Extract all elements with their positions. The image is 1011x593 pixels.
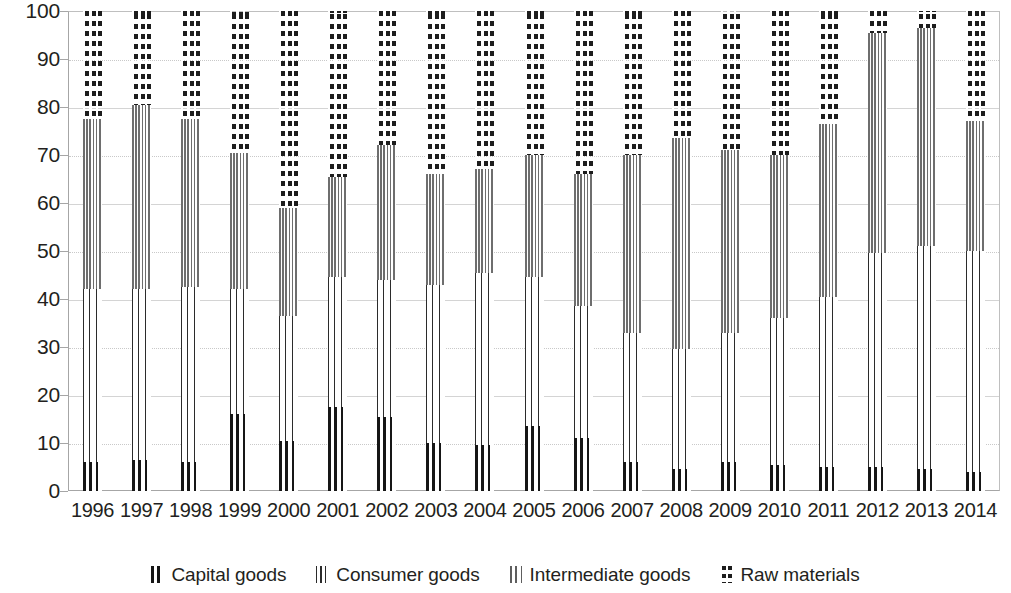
- bar-segment-intermediate[interactable]: [83, 119, 102, 289]
- bar-segment-raw[interactable]: [917, 11, 936, 28]
- bar-segment-intermediate[interactable]: [279, 208, 298, 316]
- bar-segment-consumer[interactable]: [230, 289, 249, 414]
- bar-group[interactable]: [917, 11, 936, 491]
- bar-segment-consumer[interactable]: [623, 333, 642, 463]
- bar-segment-intermediate[interactable]: [525, 155, 544, 277]
- bar-segment-raw[interactable]: [181, 11, 200, 119]
- bar-group[interactable]: [426, 11, 445, 491]
- bar-segment-consumer[interactable]: [181, 287, 200, 462]
- bar-segment-capital[interactable]: [819, 467, 838, 491]
- bar-segment-intermediate[interactable]: [230, 153, 249, 290]
- bar-segment-capital[interactable]: [623, 462, 642, 491]
- bar-segment-raw[interactable]: [966, 11, 985, 121]
- bar-group[interactable]: [525, 11, 544, 491]
- bar-segment-consumer[interactable]: [672, 349, 691, 469]
- bar-segment-intermediate[interactable]: [721, 150, 740, 332]
- bar-segment-raw[interactable]: [377, 11, 396, 145]
- bar-group[interactable]: [672, 11, 691, 491]
- bar-segment-capital[interactable]: [770, 465, 789, 491]
- bar-segment-capital[interactable]: [917, 469, 936, 491]
- bar-segment-intermediate[interactable]: [181, 119, 200, 287]
- bar-segment-consumer[interactable]: [426, 285, 445, 443]
- bar-segment-capital[interactable]: [181, 462, 200, 491]
- bar-segment-intermediate[interactable]: [475, 169, 494, 272]
- bar-segment-intermediate[interactable]: [966, 121, 985, 251]
- bar-segment-capital[interactable]: [475, 445, 494, 491]
- bar-segment-capital[interactable]: [525, 426, 544, 491]
- bar-segment-intermediate[interactable]: [868, 33, 887, 254]
- bar-segment-intermediate[interactable]: [672, 138, 691, 349]
- bar-segment-capital[interactable]: [868, 467, 887, 491]
- legend-item[interactable]: Raw materials: [720, 565, 859, 584]
- bar-segment-intermediate[interactable]: [623, 155, 642, 333]
- bar-segment-raw[interactable]: [328, 11, 347, 177]
- bar-segment-raw[interactable]: [83, 11, 102, 119]
- bar-segment-capital[interactable]: [83, 462, 102, 491]
- bar-segment-capital[interactable]: [574, 438, 593, 491]
- bar-segment-consumer[interactable]: [525, 277, 544, 426]
- bar-segment-consumer[interactable]: [917, 246, 936, 469]
- bar-group[interactable]: [966, 11, 985, 491]
- bar-segment-raw[interactable]: [279, 11, 298, 208]
- x-axis-tick-label: 2006: [559, 498, 608, 522]
- bar-segment-consumer[interactable]: [279, 316, 298, 441]
- bar-group[interactable]: [132, 11, 151, 491]
- bar-segment-capital[interactable]: [672, 469, 691, 491]
- bar-segment-raw[interactable]: [475, 11, 494, 169]
- bar-segment-capital[interactable]: [377, 417, 396, 491]
- bar-group[interactable]: [819, 11, 838, 491]
- bar-segment-consumer[interactable]: [868, 253, 887, 467]
- bar-segment-raw[interactable]: [819, 11, 838, 124]
- bar-segment-capital[interactable]: [132, 460, 151, 491]
- bar-group[interactable]: [181, 11, 200, 491]
- legend-item[interactable]: Consumer goods: [316, 565, 479, 584]
- bar-group[interactable]: [377, 11, 396, 491]
- bar-segment-intermediate[interactable]: [819, 124, 838, 297]
- bar-group[interactable]: [279, 11, 298, 491]
- bar-group[interactable]: [623, 11, 642, 491]
- bar-segment-consumer[interactable]: [377, 280, 396, 417]
- bar-segment-raw[interactable]: [230, 11, 249, 153]
- bar-segment-capital[interactable]: [721, 462, 740, 491]
- bar-group[interactable]: [230, 11, 249, 491]
- bar-group[interactable]: [770, 11, 789, 491]
- bar-segment-consumer[interactable]: [966, 251, 985, 472]
- bar-segment-consumer[interactable]: [721, 333, 740, 463]
- bar-segment-raw[interactable]: [132, 11, 151, 105]
- bar-segment-raw[interactable]: [672, 11, 691, 138]
- bar-segment-intermediate[interactable]: [917, 28, 936, 246]
- bar-group[interactable]: [475, 11, 494, 491]
- bar-segment-intermediate[interactable]: [328, 177, 347, 278]
- bar-segment-raw[interactable]: [426, 11, 445, 174]
- bar-segment-intermediate[interactable]: [377, 145, 396, 279]
- bar-group[interactable]: [868, 11, 887, 491]
- bar-segment-raw[interactable]: [525, 11, 544, 155]
- bar-segment-raw[interactable]: [868, 11, 887, 33]
- bar-segment-consumer[interactable]: [574, 306, 593, 438]
- bar-group[interactable]: [328, 11, 347, 491]
- bar-segment-consumer[interactable]: [132, 289, 151, 459]
- bar-segment-intermediate[interactable]: [574, 174, 593, 306]
- legend-item[interactable]: Capital goods: [151, 565, 286, 584]
- bar-group[interactable]: [721, 11, 740, 491]
- bar-segment-consumer[interactable]: [475, 273, 494, 446]
- legend-item[interactable]: Intermediate goods: [510, 565, 691, 584]
- bar-segment-capital[interactable]: [426, 443, 445, 491]
- bar-segment-raw[interactable]: [623, 11, 642, 155]
- bar-segment-consumer[interactable]: [819, 297, 838, 467]
- bar-segment-raw[interactable]: [770, 11, 789, 155]
- bar-segment-consumer[interactable]: [770, 318, 789, 464]
- bar-segment-capital[interactable]: [328, 407, 347, 491]
- bar-segment-capital[interactable]: [966, 472, 985, 491]
- bar-segment-capital[interactable]: [230, 414, 249, 491]
- bar-group[interactable]: [574, 11, 593, 491]
- bar-segment-raw[interactable]: [721, 11, 740, 150]
- bar-segment-intermediate[interactable]: [132, 105, 151, 290]
- bar-segment-intermediate[interactable]: [770, 155, 789, 318]
- bar-segment-consumer[interactable]: [328, 277, 347, 407]
- bar-segment-intermediate[interactable]: [426, 174, 445, 284]
- bar-group[interactable]: [83, 11, 102, 491]
- bar-segment-consumer[interactable]: [83, 289, 102, 462]
- bar-segment-capital[interactable]: [279, 441, 298, 491]
- bar-segment-raw[interactable]: [574, 11, 593, 174]
